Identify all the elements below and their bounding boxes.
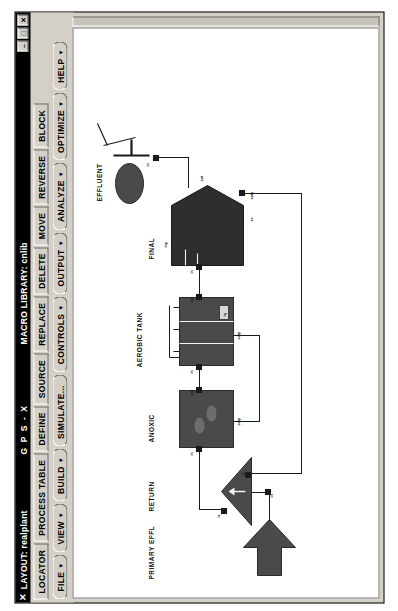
label-aerobic-tank: AEROBIC TANK — [135, 312, 142, 367]
menu-optimize-label: OPTIMIZE — [55, 109, 65, 152]
label-final: FINAL — [147, 237, 154, 259]
chevron-down-icon: ▼ — [57, 49, 63, 55]
primary-effluent-arrow-shape — [243, 519, 295, 575]
source-button[interactable]: SOURCE — [33, 353, 48, 403]
close-button[interactable]: ✕ — [17, 14, 28, 25]
port-aerobic-outp: outp — [236, 331, 240, 339]
final-clarifier-shape — [171, 185, 243, 265]
port-final-ss: ss — [249, 217, 253, 221]
define-button[interactable]: DEFINE — [33, 406, 48, 451]
label-anoxic: ANOXIC — [147, 414, 154, 442]
toolbars: LOCATOR PROCESS TABLE DEFINE SOURCE REPL… — [30, 12, 73, 602]
rotated-application-window: ✕ LAYOUT: realplant G P S - X MACRO LIBR… — [0, 0, 398, 611]
title-bar-left: ✕ LAYOUT: realplant — [18, 510, 28, 600]
menu-analyze[interactable]: ANALYZE ▼ — [52, 162, 67, 229]
chevron-down-icon: ▼ — [57, 100, 63, 106]
menu-output[interactable]: OUTPUT ▼ — [52, 232, 67, 294]
port-anoxic-in: in — [189, 452, 193, 455]
menu-controls-label: CONTROLS — [55, 313, 65, 364]
chevron-down-icon: ▼ — [57, 240, 63, 246]
menu-help[interactable]: HELP ▼ — [52, 41, 67, 90]
port-final-out: out — [199, 175, 203, 181]
toolbar-row-commands: LOCATOR PROCESS TABLE DEFINE SOURCE REPL… — [32, 15, 49, 599]
canvas-area: PRIMARY EFFL RETURN ANOXIC AEROBIC TANK … — [72, 16, 379, 598]
menu-file-label: FILE — [55, 571, 65, 591]
port-final-in: in — [189, 270, 193, 273]
process-table-button[interactable]: PROCESS TABLE — [33, 453, 48, 541]
port-aerobic-in: in — [189, 370, 193, 373]
label-primary-effluent: PRIMARY EFFL — [147, 525, 154, 579]
chevron-down-icon: ▼ — [57, 170, 63, 176]
menu-build[interactable]: BUILD ▼ — [52, 448, 67, 501]
port-return-ix: ix — [216, 514, 220, 517]
port-final-inp: inp — [163, 242, 167, 247]
menu-output-label: OUTPUT — [55, 249, 65, 286]
reverse-button[interactable]: REVERSE — [33, 149, 48, 204]
menu-view-label: VIEW — [55, 521, 65, 544]
menu-build-label: BUILD — [55, 466, 65, 494]
layout-window: ✕ LAYOUT: realplant G P S - X MACRO LIBR… — [14, 11, 384, 603]
toolbar-row-menus: FILE ▼ VIEW ▼ BUILD ▼ SIMULATE... — [51, 15, 68, 599]
layout-title: LAYOUT: realplant — [18, 510, 28, 589]
menu-controls[interactable]: CONTROLS ▼ — [52, 296, 67, 372]
port-aerobic-iq: iq — [222, 313, 226, 316]
canvas-vertical-scrollbar[interactable] — [72, 16, 379, 26]
flowsheet-vector-layer — [73, 27, 378, 597]
move-button[interactable]: MOVE — [33, 206, 48, 244]
port-return-is: is — [240, 472, 244, 475]
link-return-to-anoxic — [199, 447, 225, 509]
port-anoxic-out: out — [189, 389, 193, 395]
locator-button[interactable]: LOCATOR — [33, 543, 48, 599]
chevron-down-icon: ▼ — [57, 511, 63, 517]
block-button[interactable]: BLOCK — [33, 103, 48, 147]
menu-simulate[interactable]: SIMULATE... — [52, 374, 67, 447]
window-close-glyph-icon[interactable]: ✕ — [18, 592, 27, 600]
process-flow-canvas[interactable]: PRIMARY EFFL RETURN ANOXIC AEROBIC TANK … — [72, 27, 379, 598]
return-triangle-shape — [221, 457, 251, 525]
menu-file[interactable]: FILE ▼ — [52, 554, 67, 599]
screenshot-frame: ✕ LAYOUT: realplant G P S - X MACRO LIBR… — [0, 0, 398, 611]
anoxic-tank-shape — [179, 390, 233, 447]
chevron-down-icon: ▼ — [57, 304, 63, 310]
delete-button[interactable]: DELETE — [33, 247, 48, 295]
link-internal-recycle — [233, 335, 259, 421]
chevron-down-icon: ▼ — [57, 562, 63, 568]
menu-simulate-label: SIMULATE... — [55, 385, 65, 439]
aerobic-tank-shape — [169, 297, 233, 365]
effluent-shape — [97, 123, 149, 203]
link-final-recycle-to-return — [243, 193, 301, 473]
menu-optimize[interactable]: OPTIMIZE ▼ — [52, 92, 67, 160]
menu-view[interactable]: VIEW ▼ — [52, 503, 67, 551]
port-effluent-in: in — [145, 163, 149, 166]
chevron-down-icon: ▼ — [57, 456, 63, 462]
minimize-button[interactable]: – — [17, 40, 28, 51]
port-anoxic-outp: outp — [236, 417, 240, 425]
flowsheet-diagram: PRIMARY EFFL RETURN ANOXIC AEROBIC TANK … — [73, 28, 378, 597]
macro-library-title: MACRO LIBRARY: cnlib — [18, 242, 28, 344]
label-return: RETURN — [147, 481, 154, 511]
title-bar: ✕ LAYOUT: realplant G P S - X MACRO LIBR… — [15, 12, 30, 602]
window-controls: – □ ✕ — [17, 14, 28, 51]
label-effluent: EFFLUENT — [95, 163, 102, 201]
menu-analyze-label: ANALYZE — [55, 180, 65, 222]
maximize-button[interactable]: □ — [17, 27, 28, 38]
app-title: G P S - X — [18, 404, 28, 454]
port-final-outp: outp — [249, 191, 253, 199]
replace-button[interactable]: REPLACE — [33, 296, 48, 351]
link-final-to-effluent — [157, 157, 188, 187]
port-aerobic-out: out — [189, 296, 193, 302]
link-primary-to-return — [251, 492, 269, 519]
port-return-in: in — [269, 494, 273, 497]
menu-help-label: HELP — [55, 58, 65, 82]
